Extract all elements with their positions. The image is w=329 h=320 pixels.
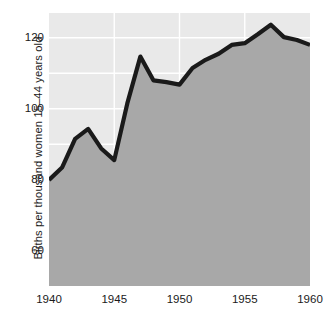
plot-area (49, 13, 310, 286)
x-tick-label: 1960 (297, 294, 323, 306)
y-tick-label: 80 (0, 174, 44, 186)
y-tick-label: 120 (0, 32, 44, 44)
y-tick-label: 100 (0, 103, 44, 115)
x-axis-tick-labels: 19401945195019551960 (0, 294, 329, 310)
x-tick-label: 1955 (232, 294, 258, 306)
birth-rate-area-chart: Births per thousand women 15–44 years ol… (0, 0, 329, 320)
x-tick-label: 1945 (101, 294, 127, 306)
y-tick-label: 60 (0, 245, 44, 257)
plot-svg (49, 13, 310, 286)
y-axis-title: Births per thousand women 15–44 years ol… (32, 14, 44, 282)
x-tick-label: 1940 (36, 294, 62, 306)
x-tick-label: 1950 (167, 294, 193, 306)
